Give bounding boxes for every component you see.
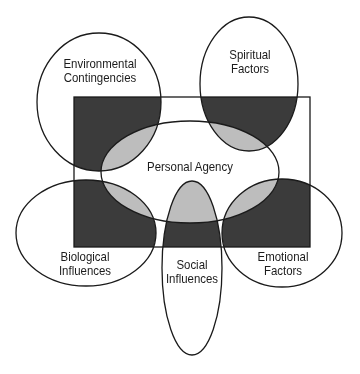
diagram-canvas: Environmental Contingencies Spiritual Fa… [0,0,360,374]
social-label: Social Influences [157,258,227,286]
spiritual-label: Spiritual Factors [215,48,285,76]
emotional-label: Emotional Factors [243,250,322,278]
biological-label: Biological Influences [50,250,120,278]
personal-agency-label: Personal Agency [128,160,251,174]
environmental-label: Environmental Contingencies [49,57,151,85]
